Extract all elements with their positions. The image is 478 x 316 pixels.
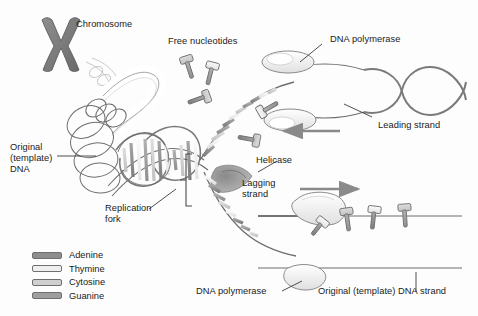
label-original-template-dna: Original (template) DNA bbox=[10, 142, 52, 176]
dna-supercoil bbox=[61, 95, 129, 193]
label-dna-polymerase-bottom: DNA polymerase bbox=[196, 286, 266, 297]
legend-swatch-guanine bbox=[32, 292, 62, 299]
legend-item-thymine: Thymine bbox=[32, 263, 105, 275]
lagging-strand-duplex bbox=[258, 216, 462, 268]
original-template-dna-helix bbox=[108, 127, 208, 197]
legend: Adenine Thymine Cytosine Guanine bbox=[32, 249, 105, 303]
dna-polymerase-leading-top bbox=[262, 51, 314, 73]
legend-item-adenine: Adenine bbox=[32, 249, 105, 261]
legend-label-thymine: Thymine bbox=[69, 264, 105, 274]
label-chromosome: Chromosome bbox=[76, 19, 132, 30]
dna-replication-diagram: Chromosome Free nucleotides DNA polymera… bbox=[0, 0, 478, 316]
legend-label-adenine: Adenine bbox=[69, 250, 103, 260]
legend-item-guanine: Guanine bbox=[32, 290, 105, 302]
label-lagging-strand: Lagging strand bbox=[242, 178, 275, 200]
leading-strand-duplex bbox=[282, 64, 466, 118]
label-replication-fork: Replication fork bbox=[105, 203, 152, 225]
legend-swatch-adenine bbox=[32, 252, 62, 259]
label-dna-polymerase-top: DNA polymerase bbox=[330, 34, 400, 45]
legend-swatch-thymine bbox=[32, 265, 62, 272]
dna-polymerase-leading-bottom bbox=[264, 109, 316, 131]
legend-label-cytosine: Cytosine bbox=[69, 277, 105, 287]
label-helicase: Helicase bbox=[256, 155, 292, 166]
chromosome-icon bbox=[42, 18, 80, 72]
label-leading-strand: Leading strand bbox=[378, 120, 440, 131]
legend-swatch-cytosine bbox=[32, 279, 62, 286]
legend-label-guanine: Guanine bbox=[69, 291, 104, 301]
label-original-template-dna-strand: Original (template) DNA strand bbox=[318, 286, 446, 297]
legend-item-cytosine: Cytosine bbox=[32, 276, 105, 288]
label-free-nucleotides: Free nucleotides bbox=[168, 36, 238, 47]
